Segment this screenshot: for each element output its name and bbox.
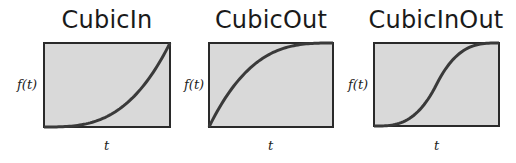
y-axis-label: f(t) <box>184 77 204 92</box>
x-axis-label: t <box>268 138 273 153</box>
plot-cubic-in <box>43 42 171 128</box>
y-axis-label: f(t) <box>348 77 368 92</box>
chart-title-cubic-out: CubicOut <box>198 6 344 34</box>
chart-title-cubic-in: CubicIn <box>43 6 171 34</box>
x-axis-label: t <box>104 138 109 153</box>
chart-title-cubic-in-out: CubicInOut <box>360 6 512 34</box>
plot-frame <box>209 43 333 127</box>
plot-cubic-in-out <box>373 42 500 127</box>
plot-frame <box>44 43 170 127</box>
y-axis-label: f(t) <box>17 77 37 92</box>
x-axis-label: t <box>434 138 439 153</box>
plot-cubic-out <box>208 42 334 128</box>
